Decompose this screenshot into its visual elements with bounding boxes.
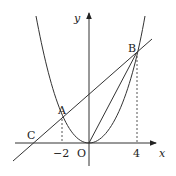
point-c-label: C: [27, 129, 35, 142]
tick-label-4: 4: [133, 147, 140, 160]
x-axis-label: x: [159, 147, 166, 160]
parabola-diagram: y x O A B C −2 4: [0, 0, 176, 176]
origin-label: O: [77, 147, 86, 160]
point-b-label: B: [128, 42, 136, 55]
tick-label-neg2: −2: [53, 147, 69, 160]
diagram-canvas: y x O A B C −2 4: [0, 0, 176, 176]
y-axis-label: y: [73, 12, 81, 25]
chord-ob: [89, 52, 137, 143]
point-a-label: A: [57, 104, 67, 117]
parabola-curve: [36, 16, 145, 143]
